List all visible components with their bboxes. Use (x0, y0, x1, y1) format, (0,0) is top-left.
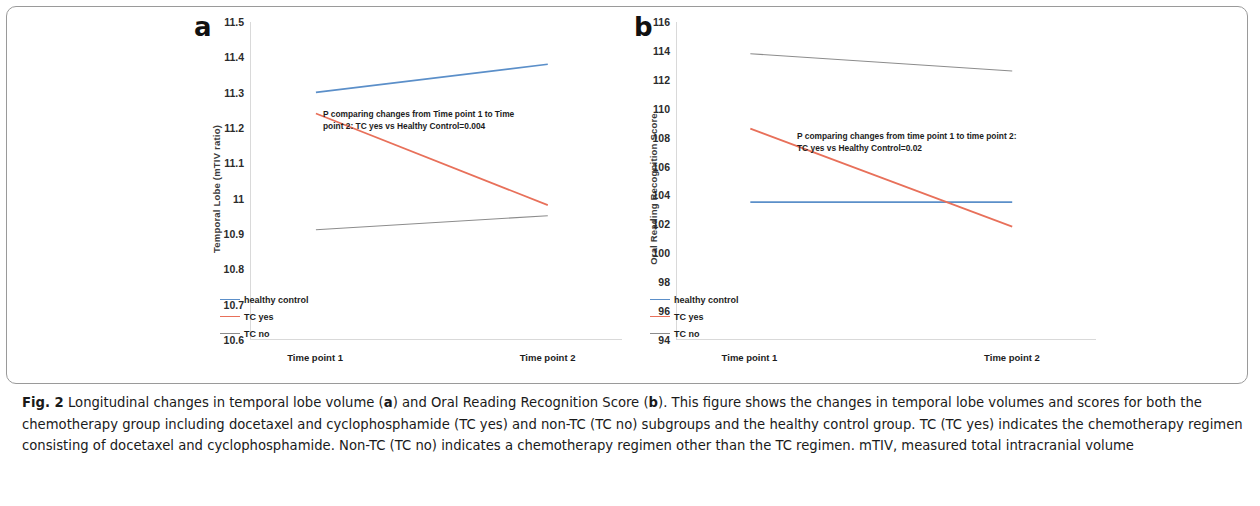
caption-panel-ref: b (649, 395, 658, 410)
y-tick-label: 11.4 (224, 51, 244, 63)
p-value-annotation-b: P comparing changes from time point 1 to… (797, 130, 1016, 154)
plot-area-b: P comparing changes from time point 1 to… (676, 22, 1096, 340)
legend-item: TC yes (650, 308, 739, 325)
y-tick-label: 114 (653, 45, 670, 57)
legend-item: TC no (220, 325, 309, 342)
y-tick-label: 10.8 (224, 263, 244, 275)
figure-2-container: a Temporal Lobe (mTIV ratio) 11.511.411.… (0, 0, 1260, 506)
chart-panel-a: a Temporal Lobe (mTIV ratio) 11.511.411.… (180, 8, 630, 370)
legend-item: TC no (650, 325, 739, 342)
legend-label: healthy control (244, 295, 309, 305)
legend-swatch-icon (650, 316, 670, 317)
legend-item: TC yes (220, 308, 309, 325)
y-tick-label: 106 (652, 161, 670, 173)
figure-caption: Fig. 2 Longitudinal changes in temporal … (22, 392, 1246, 457)
legend-swatch-icon (650, 333, 670, 334)
legend-label: TC yes (674, 312, 704, 322)
legend-swatch-icon (220, 299, 240, 300)
legend-a: healthy controlTC yesTC no (220, 291, 309, 342)
figure-caption-text: Longitudinal changes in temporal lobe vo… (22, 395, 1243, 453)
y-tick-label: 11 (233, 193, 244, 205)
chart-panel-b: b Oral Reading Recognition Score 1161141… (620, 8, 1100, 370)
series-lines-b (677, 22, 1096, 339)
x-tick-label: Time point 2 (984, 352, 1040, 363)
figure-caption-label: Fig. 2 (22, 395, 64, 410)
legend-label: TC yes (244, 312, 274, 322)
y-tick-label: 100 (652, 247, 670, 259)
series-line-tc-no (316, 216, 548, 230)
y-tick-label: 116 (653, 16, 670, 28)
y-tick-label: 11.1 (224, 157, 244, 169)
x-axis-labels-a: Time point 1Time point 2 (250, 352, 622, 368)
x-tick-label: Time point 1 (287, 352, 343, 363)
legend-swatch-icon (220, 316, 240, 317)
legend-item: healthy control (220, 291, 309, 308)
y-tick-label: 104 (652, 189, 670, 201)
y-tick-label: 11.2 (224, 122, 244, 134)
y-tick-label: 112 (653, 74, 670, 86)
series-line-healthy-control (316, 64, 548, 92)
caption-panel-ref: a (384, 395, 393, 410)
p-value-annotation-a: P comparing changes from Time point 1 to… (323, 108, 514, 132)
legend-item: healthy control (650, 291, 739, 308)
y-tick-label: 98 (658, 276, 670, 288)
legend-label: TC no (674, 329, 700, 339)
y-tick-label: 110 (653, 103, 670, 115)
x-axis-labels-b: Time point 1Time point 2 (676, 352, 1096, 368)
legend-swatch-icon (220, 333, 240, 334)
legend-label: healthy control (674, 295, 739, 305)
series-line-tc-no (750, 54, 1012, 71)
y-tick-label: 108 (652, 132, 670, 144)
legend-b: healthy controlTC yesTC no (650, 291, 739, 342)
x-tick-label: Time point 1 (722, 352, 778, 363)
y-tick-label: 11.3 (224, 87, 244, 99)
y-tick-label: 10.9 (224, 228, 244, 240)
legend-swatch-icon (650, 299, 670, 300)
x-tick-label: Time point 2 (520, 352, 576, 363)
y-tick-label: 11.5 (224, 16, 244, 28)
legend-label: TC no (244, 329, 270, 339)
y-tick-label: 102 (652, 218, 670, 230)
